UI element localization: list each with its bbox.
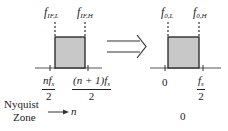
- frac-numerator: fs: [197, 75, 205, 90]
- zone-arrow-icon: [48, 110, 69, 115]
- right-tick-high-label: fs 2: [197, 75, 205, 102]
- left-tick-low-label: nfs 2: [42, 75, 55, 102]
- left-tick-high-label: (n + 1)fs 2: [72, 75, 111, 102]
- label-sub: 0,H: [196, 12, 206, 20]
- frac-numerator: (n + 1)fs: [72, 75, 111, 90]
- right-zone-value: 0: [180, 111, 186, 122]
- frac-denominator: 2: [198, 90, 204, 102]
- right-marker-low-label: f0,L: [161, 6, 174, 20]
- frac-denominator: 2: [46, 90, 52, 102]
- left-marker-high-label: fIF,H: [77, 6, 93, 20]
- label-sub: IF,H: [80, 12, 93, 20]
- frac-numerator: nfs: [42, 75, 55, 90]
- label-sub: 0,L: [164, 12, 173, 20]
- frac-denominator: 2: [89, 90, 95, 102]
- right-band-box: [168, 37, 199, 68]
- double-arrow-icon: [107, 35, 146, 58]
- left-band-box: [55, 37, 85, 68]
- right-tick-low-label: 0: [162, 77, 168, 88]
- zone-legend-line1: Nyquist: [4, 99, 39, 110]
- zone-legend-line2: Zone: [13, 112, 36, 123]
- zone-variable: n: [71, 106, 77, 117]
- left-marker-low-label: fIF,L: [44, 6, 59, 20]
- right-marker-high-label: f0,H: [193, 6, 207, 20]
- label-sub: IF,L: [47, 12, 58, 20]
